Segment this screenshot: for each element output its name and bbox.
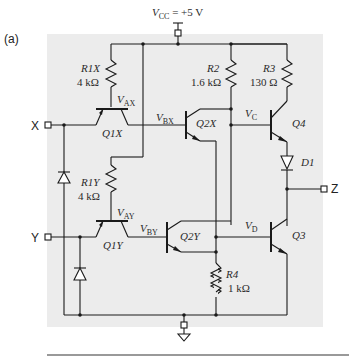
r3-name: R3 [262,62,276,74]
r3-value: 130 Ω [250,76,277,88]
r2-value: 1.6 kΩ [191,76,221,88]
r1y-value: 4 kΩ [78,190,100,202]
input-x-label: X [31,119,39,133]
r1y-name: R1Y [80,176,101,188]
input-y-terminal[interactable] [45,234,51,240]
input-y-label: Y [31,231,39,245]
r2-name: R2 [206,62,220,74]
q2y-label: Q2Y [180,230,201,242]
output-z-terminal[interactable] [321,186,327,192]
q1x-label: Q1X [102,127,123,139]
q2x-label: Q2X [196,117,217,129]
r4-value: 1 kΩ [228,282,250,294]
ttl-nand-schematic: (a) VCC = +5 V R1X 4 kΩ VAX Q1X X VBX [0,0,349,357]
d1-label: D1 [300,156,314,168]
r1x-value: 4 kΩ [77,76,99,88]
q4-label: Q4 [292,117,306,129]
q3-label: Q3 [292,229,306,241]
vcc-label: VCC = +5 V [152,6,203,21]
ground-icon [178,334,190,341]
q1y-label: Q1Y [103,239,124,251]
r4-name: R4 [225,268,239,280]
input-x-terminal[interactable] [45,122,51,128]
output-z-label: Z [331,182,338,196]
r1x-name: R1X [80,62,101,74]
panel-label: (a) [4,32,19,46]
